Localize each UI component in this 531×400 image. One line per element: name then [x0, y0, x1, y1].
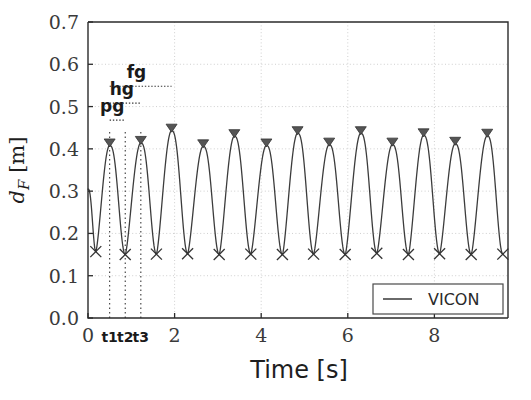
svg-text:dF [m]: dF [m] [5, 137, 33, 204]
event-label-t3: t3 [133, 329, 149, 345]
y-tick-label: 0.7 [49, 11, 79, 33]
x-tick-label: 2 [169, 324, 181, 346]
y-tick-label: 0.3 [49, 180, 79, 202]
chart-figure: pghgfg 0.00.10.20.30.40.50.60.702468 t1t… [0, 0, 531, 400]
event-label-t2: t2 [117, 329, 133, 345]
event-label-t1: t1 [101, 329, 117, 345]
x-tick-label: 4 [255, 324, 267, 346]
y-tick-label: 0.5 [49, 96, 79, 118]
y-axis-unit: [m] [5, 137, 29, 180]
line-chart: pghgfg 0.00.10.20.30.40.50.60.702468 t1t… [0, 0, 531, 400]
x-tick-label: 6 [342, 324, 354, 346]
y-tick-label: 0.2 [49, 222, 79, 244]
y-axis-symbol: d [5, 190, 29, 203]
legend-entry-vicon: VICON [428, 290, 479, 309]
chart-legend[interactable]: VICON [373, 284, 503, 314]
y-axis-label: dF [m] [5, 137, 33, 204]
y-tick-label: 0.6 [49, 53, 79, 75]
x-tick-label: 8 [428, 324, 440, 346]
y-tick-label: 0.4 [49, 138, 79, 160]
annotation-label-fg: fg [127, 62, 147, 82]
y-tick-label: 0.0 [49, 307, 79, 329]
x-axis-label: Time [s] [249, 356, 348, 384]
y-tick-label: 0.1 [49, 265, 79, 287]
y-axis-subscript: F [15, 179, 33, 191]
x-tick-label: 0 [82, 324, 94, 346]
event-marker-labels: t1t2t3 [101, 329, 149, 345]
